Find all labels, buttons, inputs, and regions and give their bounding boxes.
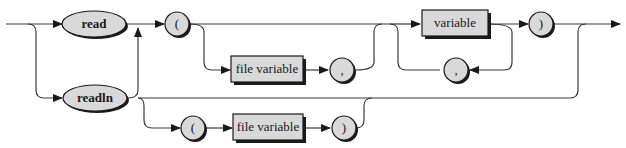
svg-text:readln: readln	[77, 90, 114, 105]
nonterminal-file-variable-lower: file variable	[233, 114, 306, 143]
svg-text:,: ,	[340, 62, 343, 77]
symbol-comma-loop: ,	[444, 58, 470, 84]
symbol-lparen-lower: (	[181, 116, 207, 142]
symbol-comma-top: ,	[330, 58, 356, 84]
svg-text:variable: variable	[434, 15, 476, 30]
nonterminal-variable: variable	[422, 10, 491, 39]
symbol-rparen-top: )	[529, 12, 555, 38]
svg-text:): )	[342, 120, 346, 135]
symbol-rparen-lower: )	[332, 116, 358, 142]
svg-text:read: read	[81, 16, 107, 31]
svg-text:): )	[539, 16, 543, 31]
syntax-diagram: read readln ( file variable , variable ,	[0, 0, 626, 148]
keyword-readln: readln	[63, 85, 129, 113]
symbol-lparen-top: (	[165, 12, 191, 38]
nonterminal-file-variable-top: file variable	[231, 56, 306, 85]
svg-text:,: ,	[454, 62, 457, 77]
keyword-read: read	[62, 11, 128, 39]
svg-text:file variable: file variable	[236, 61, 299, 76]
svg-text:(: (	[191, 120, 195, 135]
svg-text:(: (	[175, 16, 179, 31]
svg-text:file variable: file variable	[237, 119, 300, 134]
